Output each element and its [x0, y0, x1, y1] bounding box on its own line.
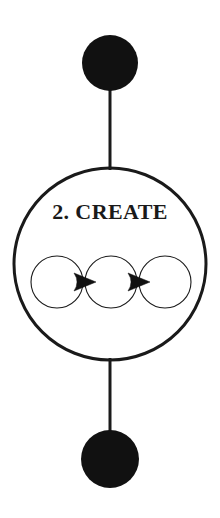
- bottom-filled-circle[interactable]: [81, 430, 139, 488]
- stage-title-label: 2. CREATE: [52, 199, 168, 224]
- flow-diagram-canvas: 2. CREATE: [0, 0, 220, 518]
- diagram-root: 2. CREATE: [0, 0, 220, 518]
- top-filled-circle[interactable]: [82, 35, 138, 91]
